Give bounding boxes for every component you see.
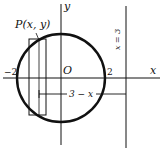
pos-two-label: 2: [107, 67, 113, 77]
y-axis-label: y: [63, 0, 71, 13]
shell-method-diagram: P(x, y) y x O −2 2 3 − x x = 3: [0, 0, 161, 158]
radius-expression-label: 3 − x: [69, 89, 93, 99]
neg-two-label: −2: [4, 67, 17, 77]
origin-label: O: [63, 64, 72, 77]
shell-rectangle: [29, 39, 46, 115]
x-axis-label: x: [150, 64, 157, 77]
point-label: P(x, y): [14, 18, 50, 31]
line-x-equals-3-label: x = 3: [113, 29, 122, 50]
